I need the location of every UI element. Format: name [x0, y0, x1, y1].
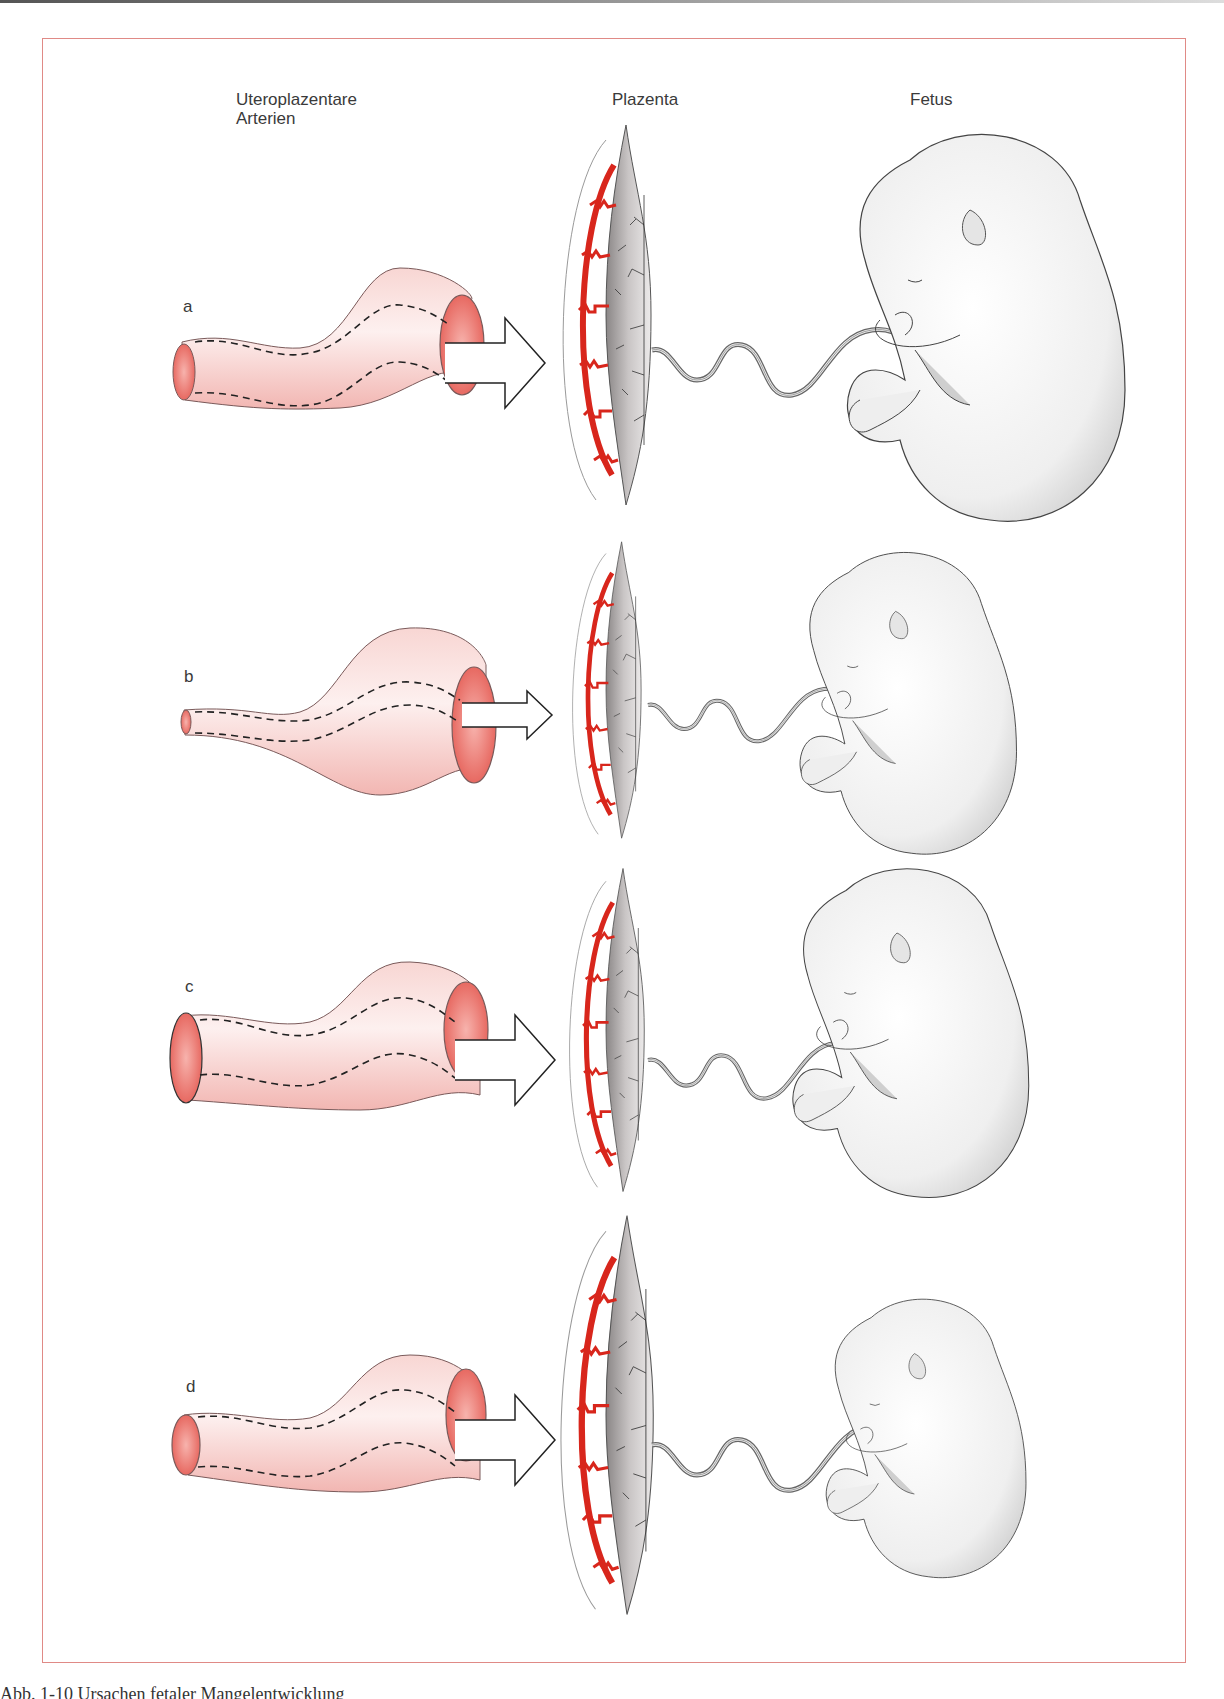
- placenta-d: [561, 1216, 653, 1615]
- placenta-a: [563, 125, 651, 505]
- artery-d: [172, 1355, 555, 1492]
- panel-c: [170, 869, 1029, 1198]
- placenta-b: [573, 542, 642, 838]
- panel-b: [181, 542, 1017, 854]
- artery-b: [181, 628, 552, 795]
- placenta-c: [570, 869, 645, 1192]
- fetus-c: [793, 869, 1029, 1198]
- fetus-a: [847, 134, 1125, 521]
- artery-a: [173, 268, 545, 409]
- artery-c: [170, 962, 555, 1110]
- panel-a: [173, 125, 1125, 521]
- fetus-d: [826, 1299, 1026, 1578]
- fetus-b: [800, 552, 1016, 854]
- figure-caption: Abb. 1-10 Ursachen fetaler Mangelentwick…: [0, 1684, 344, 1699]
- panel-d: [172, 1216, 1026, 1615]
- illustration: [0, 0, 1224, 1699]
